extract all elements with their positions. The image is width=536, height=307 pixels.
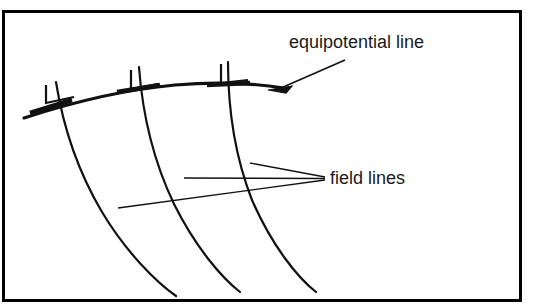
- field-line-3: [228, 62, 316, 292]
- diagram-border: [4, 12, 521, 301]
- equipotential-line-label: equipotential line: [289, 32, 424, 52]
- field-leader-middle: [184, 178, 325, 179]
- physics-diagram-figure: equipotential line field lines: [0, 0, 536, 307]
- field-leader-lower: [118, 180, 325, 208]
- right-angle-marker-3: [221, 64, 248, 83]
- diagram-canvas: equipotential line field lines: [0, 0, 536, 307]
- equipotential-leader-line: [281, 60, 345, 88]
- field-lines-label: field lines: [330, 168, 405, 188]
- field-line-1: [56, 82, 176, 296]
- field-leader-upper: [250, 163, 325, 177]
- field-line-2: [139, 67, 240, 292]
